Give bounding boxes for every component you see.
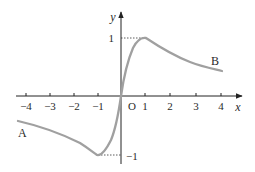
x-tick-label: −3 xyxy=(44,100,56,112)
x-tick-labels: −4 −3 −2 −1 1 2 3 4 xyxy=(20,100,224,112)
function-graph: −4 −3 −2 −1 1 2 3 4 O x y 1 −1 A B xyxy=(0,0,255,172)
point-a-label: A xyxy=(18,126,27,140)
y-axis-label: y xyxy=(109,10,116,24)
x-tick-label: 1 xyxy=(142,100,148,112)
point-b-label: B xyxy=(211,54,219,68)
x-tick-label: 3 xyxy=(193,100,199,112)
x-tick-label: −4 xyxy=(20,100,32,112)
x-tick-label: 4 xyxy=(218,100,224,112)
x-tick-label: 2 xyxy=(167,100,173,112)
y-tick-label-1: 1 xyxy=(109,32,115,44)
x-tick-label: −1 xyxy=(92,100,104,112)
origin-label: O xyxy=(128,100,136,112)
y-tick-label-minus-1: −1 xyxy=(126,150,138,162)
x-axis-label: x xyxy=(234,100,241,114)
x-tick-label: −2 xyxy=(68,100,80,112)
